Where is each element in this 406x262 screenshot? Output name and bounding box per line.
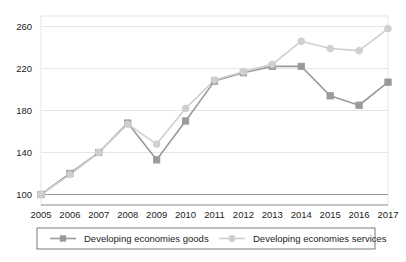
data-point	[95, 149, 102, 156]
x-tick-label: 2006	[59, 209, 80, 220]
data-point	[124, 121, 131, 128]
data-point	[327, 45, 334, 52]
x-tick-label: 2012	[233, 209, 254, 220]
grid-lines	[41, 27, 388, 195]
y-tick-label: 100	[16, 189, 32, 200]
x-axis-tick-labels: 2005200620072008200920102011201220132014…	[30, 209, 398, 220]
data-point	[269, 61, 276, 68]
x-tick-label: 2015	[320, 209, 341, 220]
x-tick-label: 2014	[291, 209, 312, 220]
x-tick-label: 2005	[30, 209, 51, 220]
y-tick-label: 260	[16, 21, 32, 32]
x-tick-label: 2010	[175, 209, 196, 220]
chart-legend: Developing economies goodsDeveloping eco…	[37, 228, 387, 249]
data-point	[327, 93, 333, 99]
x-tick-label: 2017	[377, 209, 398, 220]
data-point	[385, 25, 392, 32]
x-tick-label: 2016	[349, 209, 370, 220]
x-tick-label: 2008	[117, 209, 138, 220]
legend-label: Developing economies goods	[84, 233, 209, 244]
y-axis-tick-labels: 100140180220260	[16, 21, 32, 200]
data-point	[298, 38, 305, 45]
data-point	[356, 102, 362, 108]
series-line-services	[41, 29, 388, 195]
data-point	[298, 63, 304, 69]
data-point	[153, 157, 159, 163]
data-point	[182, 105, 189, 112]
legend-marker	[60, 235, 66, 241]
legend-marker	[229, 235, 236, 242]
x-tick-label: 2011	[204, 209, 224, 220]
series-line-goods	[41, 66, 388, 194]
data-point	[385, 79, 391, 85]
y-tick-label: 220	[16, 63, 32, 74]
data-point	[67, 171, 74, 178]
series-lines	[41, 29, 388, 195]
x-tick-label: 2013	[262, 209, 283, 220]
series-markers	[38, 25, 392, 198]
data-point	[356, 47, 363, 54]
data-point	[38, 191, 45, 198]
data-point	[240, 68, 247, 75]
x-tick-label: 2007	[88, 209, 109, 220]
legend-label: Developing economies services	[253, 233, 387, 244]
y-tick-label: 180	[16, 105, 32, 116]
y-tick-label: 140	[16, 147, 32, 158]
line-chart: 100140180220260 200520062007200820092010…	[0, 0, 406, 262]
data-point	[182, 118, 188, 124]
data-point	[153, 141, 160, 148]
x-tick-label: 2009	[146, 209, 167, 220]
data-point	[211, 77, 218, 84]
chart-container: 100140180220260 200520062007200820092010…	[0, 0, 406, 262]
